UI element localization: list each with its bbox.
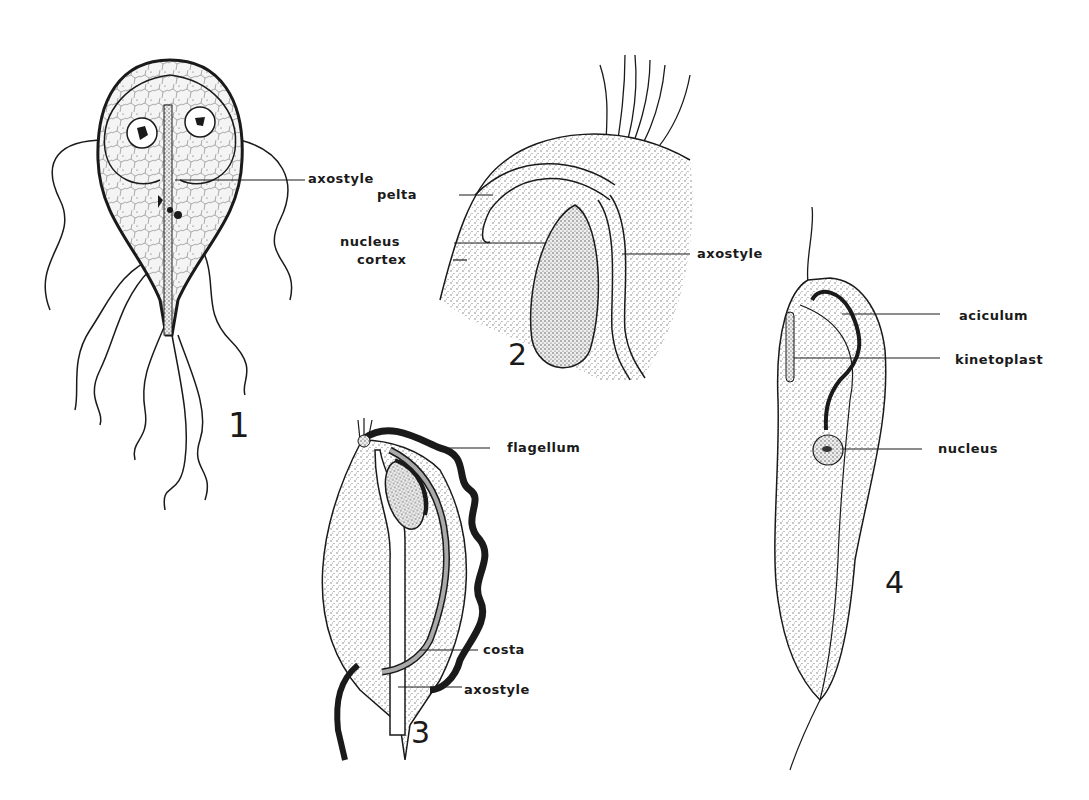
illustration-canvas bbox=[0, 0, 1089, 800]
label-fig3-costa: costa bbox=[483, 643, 525, 657]
label-fig2-axostyle: axostyle bbox=[697, 247, 763, 261]
panel-number-4: 4 bbox=[885, 568, 904, 598]
label-fig4-nucleus: nucleus bbox=[938, 442, 998, 456]
label-fig2-cortex: cortex bbox=[357, 253, 406, 267]
panel-number-2: 2 bbox=[508, 340, 527, 370]
label-fig3-flagellum: flagellum bbox=[507, 441, 580, 455]
panel-number-3: 3 bbox=[411, 718, 430, 748]
label-fig2-pelta: pelta bbox=[377, 188, 417, 202]
figure-4-trypanosomatid bbox=[775, 207, 940, 770]
label-fig3-axostyle: axostyle bbox=[464, 683, 530, 697]
label-fig2-nucleus: nucleus bbox=[340, 235, 400, 249]
label-fig4-aciculum: aciculum bbox=[959, 309, 1028, 323]
figure-3-trichomonas bbox=[322, 418, 490, 760]
panel-number-1: 1 bbox=[228, 410, 250, 440]
label-fig1-axostyle: axostyle bbox=[308, 172, 374, 186]
figure-1-giardia bbox=[45, 60, 305, 510]
label-fig4-kinetoplast: kinetoplast bbox=[955, 353, 1043, 367]
figure-2-detail bbox=[440, 55, 693, 380]
